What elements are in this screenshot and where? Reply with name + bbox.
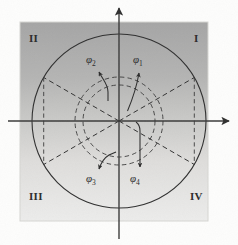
- quadrant-label-4: IV: [190, 190, 203, 202]
- quadrant-label-1: I: [194, 32, 199, 44]
- angle-label-phi-1: φ1: [133, 53, 143, 68]
- quadrant-label-3: III: [29, 190, 43, 202]
- phi-4-subscript: 4: [136, 178, 140, 187]
- angle-label-phi-3: φ3: [86, 172, 96, 187]
- phi-3-subscript: 3: [92, 178, 96, 187]
- figure-canvas: I II III IV φ1 φ2 φ3 φ4: [0, 0, 238, 245]
- phi-2-subscript: 2: [92, 59, 96, 68]
- angle-label-phi-2: φ2: [86, 53, 96, 68]
- quadrant-label-2: II: [29, 32, 38, 44]
- angle-label-phi-4: φ4: [130, 172, 140, 187]
- phi-1-subscript: 1: [139, 59, 143, 68]
